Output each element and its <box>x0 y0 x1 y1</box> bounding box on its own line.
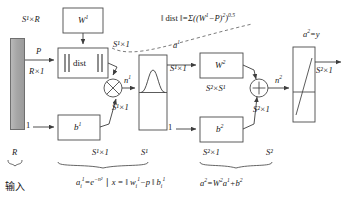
sum-operator-shape <box>250 79 268 97</box>
block-w1-label: W1 <box>78 15 88 25</box>
dimension-label-s1x1-a: S¹×1 <box>113 40 130 49</box>
dimension-label-s2x1-b: S²×1 <box>316 66 333 75</box>
dist-norm-bar-right-inner <box>97 54 99 72</box>
dimension-label-s2x1-c: S²×1 <box>203 148 220 157</box>
signal-label-one-mid: 1 <box>168 123 172 132</box>
diagram-canvas: dist W1 b1 W2 b2 P 1 1 n1 a1 n2 a2=y S¹×… <box>0 0 349 200</box>
dist-norm-bar-left-inner <box>68 54 70 72</box>
wire-dist-to-product <box>108 63 117 75</box>
dimension-label-s1x1-d: S¹×1 <box>92 148 109 157</box>
dimension-label-Rx1: R×1 <box>29 67 44 76</box>
layer1-formula: ai1=e−n² ∣ x = ‖ wi1−p ‖ bi1 <box>76 177 165 187</box>
dist-formula-lead: ‖ dist ‖ <box>161 13 182 23</box>
layer1-formula-sep: ∣ <box>105 177 110 187</box>
wire-w2-to-sum <box>243 65 256 79</box>
block-b1-label: b1 <box>74 122 81 132</box>
brace-label-S1: S¹ <box>141 148 148 157</box>
layer1-formula-main: ai1=e−n² <box>76 177 102 187</box>
dist-callout-leader <box>112 24 252 52</box>
layer1-formula-tail: x = ‖ wi1−p ‖ bi1 <box>112 177 166 187</box>
signal-label-p: P <box>36 47 41 56</box>
brace-label-R: R <box>12 148 17 157</box>
brace-S1 <box>58 162 148 168</box>
signal-label-a2-output: a2=y <box>303 30 320 39</box>
diagram-vector-layer <box>0 0 349 200</box>
brace-S2 <box>200 162 272 168</box>
dimension-label-s2x1-a: S²×1 <box>253 105 270 114</box>
dimension-label-s1xR: S¹×R <box>22 15 40 24</box>
block-b2-label: b2 <box>216 124 223 134</box>
dimension-label-s2xs1: S²×S¹ <box>206 84 225 93</box>
dist-norm-bar-right-outer <box>101 54 103 72</box>
signal-label-n2: n2 <box>275 76 282 85</box>
signal-label-n1: n1 <box>124 76 131 85</box>
dimension-label-s1x1-b: S¹×1 <box>112 103 129 112</box>
input-vector-bar <box>10 38 25 130</box>
dist-norm-bar-left-outer <box>64 54 66 72</box>
caption-input-cjk: 输入 <box>5 178 25 193</box>
brace-R <box>8 160 22 166</box>
product-operator-shape <box>104 79 122 97</box>
block-dist-label: dist <box>73 58 86 68</box>
dimension-label-s1x1-c: S¹×1 <box>170 64 187 73</box>
signal-label-a1: a1 <box>173 41 180 50</box>
block-w2-label: W2 <box>215 60 225 70</box>
signal-label-one-left: 1 <box>26 121 30 130</box>
layer2-formula: a2=W2a1+b2 <box>200 178 243 188</box>
layer2-formula-main: a2=W2a1+b2 <box>200 178 243 188</box>
brace-label-S2: S² <box>266 148 273 157</box>
dist-formula-callout: ‖ dist ‖=Σ((W1−P)2)0.5 <box>161 13 235 23</box>
dist-formula-body: =Σ((W1−P)2)0.5 <box>182 13 235 23</box>
